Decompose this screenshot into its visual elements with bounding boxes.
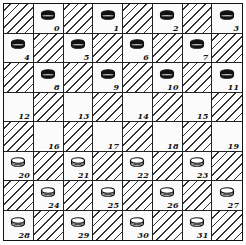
- black-checker-piece-icon[interactable]: [70, 39, 86, 50]
- black-checker-piece-icon[interactable]: [189, 39, 205, 50]
- square-number: 27: [228, 201, 239, 209]
- square-number: 2: [173, 24, 179, 32]
- hatched-square: [64, 122, 94, 152]
- white-checker-piece-icon[interactable]: [100, 186, 116, 197]
- white-checker-piece-icon[interactable]: [159, 186, 175, 197]
- hatched-square: [34, 211, 64, 241]
- black-checker-piece-icon[interactable]: [129, 39, 145, 50]
- playing-square[interactable]: 18: [153, 122, 183, 152]
- playing-square[interactable]: 14: [123, 93, 153, 123]
- playing-square[interactable]: 4: [4, 34, 34, 64]
- white-checker-piece-icon[interactable]: [10, 216, 26, 227]
- playing-square[interactable]: 2: [153, 4, 183, 34]
- hatched-square: [212, 211, 242, 241]
- square-number: 18: [167, 142, 178, 150]
- hatched-square: [123, 4, 153, 34]
- playing-square[interactable]: 16: [34, 122, 64, 152]
- square-number: 4: [24, 53, 30, 61]
- playing-square[interactable]: 20: [4, 152, 34, 182]
- hatched-square: [212, 93, 242, 123]
- playing-square[interactable]: 3: [212, 4, 242, 34]
- playing-square[interactable]: 13: [64, 93, 94, 123]
- hatched-square: [212, 34, 242, 64]
- hatched-square: [4, 4, 34, 34]
- square-number: 1: [113, 24, 119, 32]
- hatched-square: [34, 34, 64, 64]
- hatched-square: [34, 93, 64, 123]
- black-checker-piece-icon[interactable]: [100, 68, 116, 79]
- hatched-square: [183, 122, 213, 152]
- playing-square[interactable]: 6: [123, 34, 153, 64]
- playing-square[interactable]: 22: [123, 152, 153, 182]
- playing-square[interactable]: 10: [153, 63, 183, 93]
- square-number: 10: [167, 83, 178, 91]
- square-number: 21: [78, 171, 89, 179]
- black-checker-piece-icon[interactable]: [40, 68, 56, 79]
- square-number: 3: [233, 24, 239, 32]
- black-checker-piece-icon[interactable]: [219, 9, 235, 20]
- hatched-square: [64, 181, 94, 211]
- playing-square[interactable]: 30: [123, 211, 153, 241]
- hatched-square: [123, 181, 153, 211]
- white-checker-piece-icon[interactable]: [219, 186, 235, 197]
- playing-square[interactable]: 19: [212, 122, 242, 152]
- playing-square[interactable]: 31: [183, 211, 213, 241]
- white-checker-piece-icon[interactable]: [70, 157, 86, 168]
- hatched-square: [183, 181, 213, 211]
- hatched-square: [153, 152, 183, 182]
- hatched-square: [123, 122, 153, 152]
- square-number: 5: [84, 53, 90, 61]
- black-checker-piece-icon[interactable]: [219, 68, 235, 79]
- hatched-square: [93, 34, 123, 64]
- white-checker-piece-icon[interactable]: [10, 157, 26, 168]
- playing-square[interactable]: 8: [34, 63, 64, 93]
- playing-square[interactable]: 25: [93, 181, 123, 211]
- square-number: 13: [78, 112, 89, 120]
- square-number: 19: [228, 142, 239, 150]
- playing-square[interactable]: 29: [64, 211, 94, 241]
- playing-square[interactable]: 9: [93, 63, 123, 93]
- white-checker-piece-icon[interactable]: [40, 186, 56, 197]
- hatched-square: [93, 152, 123, 182]
- hatched-square: [212, 152, 242, 182]
- playing-square[interactable]: 23: [183, 152, 213, 182]
- playing-square[interactable]: 17: [93, 122, 123, 152]
- black-checker-piece-icon[interactable]: [159, 9, 175, 20]
- playing-square[interactable]: 0: [34, 4, 64, 34]
- playing-square[interactable]: 5: [64, 34, 94, 64]
- hatched-square: [153, 93, 183, 123]
- playing-square[interactable]: 24: [34, 181, 64, 211]
- white-checker-piece-icon[interactable]: [129, 216, 145, 227]
- white-checker-piece-icon[interactable]: [189, 216, 205, 227]
- hatched-square: [64, 63, 94, 93]
- square-number: 0: [54, 24, 60, 32]
- square-number: 15: [197, 112, 208, 120]
- black-checker-piece-icon[interactable]: [40, 9, 56, 20]
- square-number: 8: [54, 83, 60, 91]
- playing-square[interactable]: 12: [4, 93, 34, 123]
- square-number: 22: [138, 171, 149, 179]
- hatched-square: [153, 211, 183, 241]
- playing-square[interactable]: 7: [183, 34, 213, 64]
- square-number: 11: [228, 83, 239, 91]
- playing-square[interactable]: 11: [212, 63, 242, 93]
- white-checker-piece-icon[interactable]: [129, 157, 145, 168]
- square-number: 6: [143, 53, 149, 61]
- hatched-square: [153, 34, 183, 64]
- white-checker-piece-icon[interactable]: [189, 157, 205, 168]
- playing-square[interactable]: 28: [4, 211, 34, 241]
- hatched-square: [64, 4, 94, 34]
- black-checker-piece-icon[interactable]: [100, 9, 116, 20]
- playing-square[interactable]: 1: [93, 4, 123, 34]
- playing-square[interactable]: 21: [64, 152, 94, 182]
- square-number: 7: [203, 53, 209, 61]
- white-checker-piece-icon[interactable]: [70, 216, 86, 227]
- black-checker-piece-icon[interactable]: [159, 68, 175, 79]
- square-number: 28: [19, 231, 30, 239]
- black-checker-piece-icon[interactable]: [10, 39, 26, 50]
- hatched-square: [183, 63, 213, 93]
- playing-square[interactable]: 26: [153, 181, 183, 211]
- hatched-square: [123, 63, 153, 93]
- playing-square[interactable]: 15: [183, 93, 213, 123]
- playing-square[interactable]: 27: [212, 181, 242, 211]
